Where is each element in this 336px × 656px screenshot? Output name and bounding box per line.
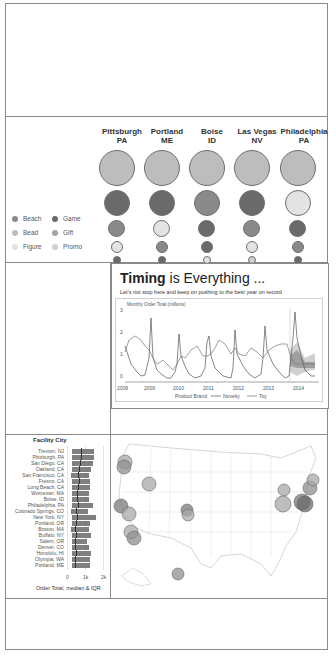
median-marker (81, 454, 82, 460)
bar-category-label: Portland, ME (0, 562, 64, 568)
median-marker (76, 520, 77, 526)
divider (5, 598, 328, 599)
legend-label: Beach (23, 215, 41, 222)
iqr-bar[interactable] (71, 509, 88, 514)
median-marker (81, 448, 82, 454)
iqr-bar[interactable] (72, 491, 88, 496)
legend-label: Bead (23, 229, 38, 236)
x-tick: 1k (83, 574, 88, 580)
iqr-bar[interactable] (72, 515, 95, 520)
legend-item-beach[interactable]: Beach (12, 215, 41, 222)
column-header: PortlandME (142, 127, 192, 145)
legend-label: Gift (63, 229, 73, 236)
svg-text:2011: 2011 (203, 385, 214, 391)
bubble[interactable] (280, 150, 316, 186)
gridline (67, 446, 68, 570)
bubble[interactable] (292, 241, 304, 253)
legend-title: Product Brand (175, 393, 207, 399)
iqr-bar[interactable] (72, 503, 93, 508)
median-marker (78, 502, 79, 508)
median-marker (80, 460, 81, 466)
gridline (103, 446, 104, 570)
bubble[interactable] (246, 241, 258, 253)
median-marker (75, 562, 76, 568)
iqr-bar[interactable] (72, 449, 94, 454)
bubble[interactable] (144, 150, 180, 186)
bar-chart-title: Facility City (33, 437, 67, 443)
svg-text:2008: 2008 (117, 385, 128, 391)
median-marker (76, 532, 77, 538)
bubble[interactable] (285, 190, 311, 216)
iqr-bar[interactable] (72, 467, 91, 472)
svg-text:2010: 2010 (173, 385, 184, 391)
column-header: Las VegasNV (232, 127, 282, 145)
iqr-bar[interactable] (72, 455, 94, 460)
legend-label-novelty: Novelty (223, 393, 240, 399)
legend-label: Game (63, 215, 81, 222)
column-header: PittsburghPA (97, 127, 147, 145)
x-tick: 0 (66, 574, 69, 580)
bubble[interactable] (198, 220, 215, 237)
bubble-matrix-panel: PittsburghPA PortlandME BoiseID Las Vega… (0, 117, 336, 262)
legend-label: Promo (63, 243, 82, 250)
legend-item-game[interactable]: Game (52, 215, 81, 222)
column-header: BoiseID (187, 127, 237, 145)
legend-label-toy: Toy (259, 393, 267, 399)
legend-item-bead[interactable]: Bead (12, 229, 38, 236)
svg-text:2013: 2013 (263, 385, 274, 391)
median-marker (79, 466, 80, 472)
us-map[interactable] (111, 436, 328, 596)
svg-text:0: 0 (120, 373, 123, 379)
bubble[interactable] (289, 220, 306, 237)
line-chart[interactable]: Monthly Order Total (millions) 3210 2008… (115, 298, 323, 402)
legend-swatch-icon (12, 216, 18, 222)
legend-item-gift[interactable]: Gift (52, 229, 73, 236)
bubble[interactable] (149, 190, 175, 216)
iqr-bar[interactable] (72, 497, 88, 502)
iqr-bar[interactable] (71, 527, 89, 532)
bubble[interactable] (111, 241, 123, 253)
bubble[interactable] (153, 220, 170, 237)
bubble[interactable] (194, 190, 220, 216)
legend-item-figure[interactable]: Figure (12, 243, 41, 250)
divider (5, 434, 328, 435)
median-marker (76, 550, 77, 556)
svg-text:2012: 2012 (233, 385, 244, 391)
x-tick: 2k (101, 574, 106, 580)
svg-text:3: 3 (120, 307, 123, 313)
svg-text:2: 2 (120, 329, 123, 335)
bubble[interactable] (234, 150, 270, 186)
bubble[interactable] (104, 190, 130, 216)
bubble[interactable] (108, 220, 125, 237)
legend-swatch-icon (52, 216, 58, 222)
bubble[interactable] (189, 150, 225, 186)
card-title: Timing is Everything ... (120, 270, 265, 286)
bubble[interactable] (243, 220, 260, 237)
median-marker (79, 478, 80, 484)
bubble[interactable] (239, 190, 265, 216)
card-subtitle: Let's not stop here and keep on pushing … (120, 289, 282, 295)
svg-text:2014: 2014 (293, 385, 304, 391)
median-marker (78, 484, 79, 490)
iqr-bar[interactable] (72, 461, 93, 466)
svg-text:2009: 2009 (144, 385, 155, 391)
svg-text:1: 1 (120, 351, 123, 357)
legend-swatch-icon (12, 244, 18, 250)
bubble[interactable] (156, 241, 168, 253)
column-header: PhiladelphiaPA (277, 127, 331, 145)
iqr-bar[interactable] (72, 479, 90, 484)
legend-label: Figure (23, 243, 41, 250)
bubble[interactable] (99, 150, 135, 186)
timing-card: Timing is Everything ... Let's not stop … (111, 263, 329, 409)
x-axis-title: Order Total, median & IQR (36, 585, 101, 591)
iqr-bar[interactable] (72, 485, 90, 490)
iqr-bar[interactable] (71, 473, 89, 478)
legend-item-promo[interactable]: Promo (52, 243, 82, 250)
median-marker (77, 514, 78, 520)
bubble[interactable] (201, 241, 213, 253)
legend-swatch-icon (52, 244, 58, 250)
legend-swatch-icon (12, 230, 18, 236)
y-axis-label: Monthly Order Total (millions) (127, 302, 186, 307)
legend-swatch-icon (52, 230, 58, 236)
